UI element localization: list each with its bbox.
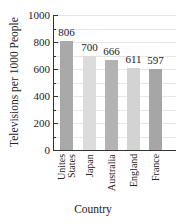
y-tick-label: 800 [34,37,51,48]
bar [105,60,118,150]
y-tick-label: 1000 [28,10,50,21]
y-tick [53,110,56,111]
x-tick-label: Unites [57,154,67,180]
y-tick [53,69,58,70]
x-tick-label: Australia [107,154,117,191]
y-tick [53,83,56,84]
y-tick [53,15,58,16]
y-tick-label: 600 [34,64,51,75]
y-tick [53,96,58,97]
y-tick-label: 0 [45,145,51,156]
y-tick [53,56,56,57]
gridline [53,15,176,16]
bar [127,68,140,150]
x-axis-label: Country [0,203,186,215]
x-axis [53,150,176,151]
y-tick [53,150,58,151]
y-tick [53,123,58,124]
bar-value-label: 806 [52,27,82,38]
bar [149,69,162,150]
x-tick-label: States [67,154,77,178]
y-tick-label: 200 [34,118,51,129]
y-axis-label: Televisions per 1000 People [8,18,20,148]
x-tick-label: Japan [85,154,95,177]
x-tick-label: England [129,154,139,187]
x-tick-label: France [151,154,161,181]
y-tick [53,137,56,138]
y-tick [53,42,58,43]
bar-value-label: 597 [141,55,171,66]
bar [60,41,73,150]
y-tick-label: 400 [34,91,51,102]
bar [83,56,96,151]
